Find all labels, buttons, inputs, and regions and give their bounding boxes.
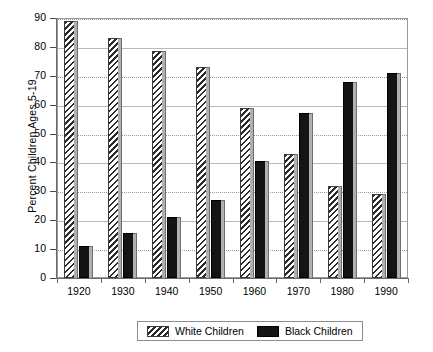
x-axis-tick-label: 1930 <box>100 285 146 297</box>
x-axis-tick-label: 1980 <box>319 285 365 297</box>
bar-group <box>276 18 320 278</box>
hatched-swatch-icon <box>147 326 169 337</box>
bar-side-shadow <box>397 73 401 278</box>
y-axis-tick-label: 80 <box>6 40 46 52</box>
bar-group <box>145 18 189 278</box>
solid-black-swatch-icon <box>257 326 279 337</box>
bar-white-children-1960 <box>240 108 254 278</box>
bar-white-children-1980 <box>328 186 342 278</box>
bar-group <box>233 18 277 278</box>
bar-group <box>189 18 233 278</box>
x-axis-tick-group: 19201930194019501960197019801990 <box>57 278 408 304</box>
y-axis-tick-label: 30 <box>6 184 46 196</box>
bar-white-children-1970 <box>284 154 298 278</box>
bar-group <box>57 18 101 278</box>
bar-side-shadow <box>221 200 225 278</box>
bar-side-shadow <box>118 38 122 278</box>
bar-side-shadow <box>294 154 298 278</box>
bar-side-shadow <box>74 21 78 278</box>
bars-layer <box>57 18 408 278</box>
bar-side-shadow <box>89 246 93 278</box>
bar-side-shadow <box>206 67 210 278</box>
x-axis-tick-mark <box>57 278 58 283</box>
y-axis-tick-group: 0102030405060708090 <box>0 18 57 278</box>
x-axis-tick-label: 1940 <box>144 285 190 297</box>
bar-black-children-1970 <box>299 113 313 278</box>
bar-black-children-1940 <box>167 217 181 278</box>
bar-group <box>101 18 145 278</box>
legend-label: Black Children <box>285 325 353 337</box>
x-axis-tick-mark <box>233 278 234 283</box>
bar-group <box>364 18 408 278</box>
x-axis-tick-mark <box>189 278 190 283</box>
bar-side-shadow <box>265 161 269 278</box>
x-axis-tick-mark <box>101 278 102 283</box>
bar-white-children-1950 <box>196 67 210 278</box>
y-axis-tick-label: 40 <box>6 155 46 167</box>
legend-label: White Children <box>175 325 244 337</box>
legend-item-black-children: Black Children <box>257 325 353 337</box>
x-axis-tick-label: 1960 <box>231 285 277 297</box>
y-axis-tick-label: 60 <box>6 98 46 110</box>
y-axis-tick-label: 10 <box>6 242 46 254</box>
legend-item-white-children: White Children <box>147 325 244 337</box>
bar-black-children-1990 <box>387 73 401 278</box>
y-axis-tick-label: 0 <box>6 271 46 283</box>
bar-white-children-1930 <box>108 38 122 278</box>
bar-white-children-1990 <box>372 194 386 278</box>
bar-chart: Percent Children Ages 5-19 0102030405060… <box>0 0 433 352</box>
bar-white-children-1920 <box>64 21 78 278</box>
x-axis-tick-mark <box>145 278 146 283</box>
x-axis-tick-mark <box>364 278 365 283</box>
bar-side-shadow <box>382 194 386 278</box>
x-axis-tick-label: 1920 <box>56 285 102 297</box>
bar-side-shadow <box>177 217 181 278</box>
bar-black-children-1930 <box>123 233 137 278</box>
bar-side-shadow <box>309 113 313 278</box>
bar-black-children-1950 <box>211 200 225 278</box>
bar-side-shadow <box>133 233 137 278</box>
bar-side-shadow <box>353 82 357 278</box>
x-axis-tick-mark <box>320 278 321 283</box>
x-axis-tick-mark <box>408 278 409 283</box>
bar-black-children-1960 <box>255 161 269 278</box>
chart-legend: White Children Black Children <box>137 321 363 341</box>
bar-side-shadow <box>250 108 254 278</box>
bar-side-shadow <box>162 51 166 278</box>
bar-group <box>320 18 364 278</box>
x-axis-tick-label: 1970 <box>275 285 321 297</box>
bar-white-children-1940 <box>152 51 166 278</box>
x-axis-tick-label: 1950 <box>188 285 234 297</box>
x-axis-tick-mark <box>276 278 277 283</box>
bar-black-children-1920 <box>79 246 93 278</box>
y-axis-tick-label: 70 <box>6 69 46 81</box>
y-axis-tick-label: 20 <box>6 213 46 225</box>
y-axis-tick-label: 50 <box>6 127 46 139</box>
bar-side-shadow <box>338 186 342 278</box>
bar-black-children-1980 <box>343 82 357 278</box>
x-axis-tick-label: 1990 <box>363 285 409 297</box>
y-axis-tick-label: 90 <box>6 11 46 23</box>
